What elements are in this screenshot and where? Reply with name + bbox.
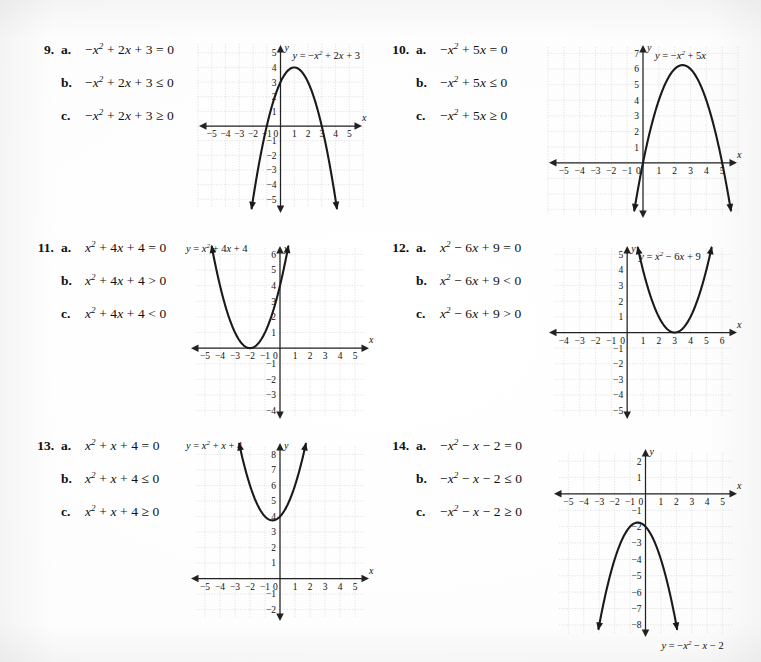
y-tick-label: 8 <box>271 450 276 460</box>
y-axis-label: y <box>283 440 289 451</box>
problem-part: 13.a.x2 + x + 4 = 0 <box>28 438 160 454</box>
problem-number: 11. <box>28 240 54 256</box>
graph-11-equation-label: y = x2 + 4x + 4 <box>186 243 248 254</box>
problem-part: 10.c.−x2 + 5x ≥ 0 <box>383 108 508 124</box>
problem-number: 10. <box>383 42 409 58</box>
x-tick-label: −3 <box>234 129 244 139</box>
part-letter: a. <box>416 240 431 256</box>
x-axis-label: x <box>368 334 374 345</box>
y-tick-label: 1 <box>271 558 276 568</box>
x-tick-label: −3 <box>594 497 604 507</box>
x-tick-label: −4 <box>220 129 230 139</box>
graph-12: −4−3−2−10123456−5−4−3−2−112345xyy = x2 −… <box>548 245 738 420</box>
problem-part: 9.c.−x2 + 2x + 3 ≥ 0 <box>28 108 174 124</box>
part-expression: x2 + 4x + 4 < 0 <box>85 306 166 322</box>
axis-names: xy <box>283 243 374 345</box>
problem-number: 12. <box>383 240 409 256</box>
textbook-page: 9.a.−x2 + 2x + 3 = 09.b.−x2 + 2x + 3 ≤ 0… <box>0 0 761 662</box>
tick-labels: −5−4−3−2−10123451234567 <box>559 49 725 176</box>
problem-number: 13. <box>28 438 54 454</box>
x-axis-label: x <box>361 112 367 123</box>
y-tick-label: 6 <box>271 250 276 260</box>
y-tick-label: 3 <box>271 527 276 537</box>
y-tick-label: 4 <box>618 265 623 275</box>
part-expression: x2 − 6x + 9 < 0 <box>440 273 521 289</box>
x-axis-label: x <box>736 149 742 160</box>
y-axis-label: y <box>649 446 655 457</box>
y-tick-label: 3 <box>272 78 277 88</box>
x-tick-label: 1 <box>659 497 664 507</box>
x-tick-label: −5 <box>207 129 217 139</box>
y-tick-label: −1 <box>266 589 276 599</box>
part-letter: c. <box>61 306 76 322</box>
x-tick-label: 1 <box>656 166 661 176</box>
part-expression: −x2 + 5x ≤ 0 <box>440 75 507 91</box>
x-tick-label: 1 <box>292 129 297 139</box>
part-expression: −x2 + 5x ≥ 0 <box>440 108 507 124</box>
y-tick-label: 4 <box>271 281 276 291</box>
problem-part: 13.b.x2 + x + 4 ≤ 0 <box>28 471 160 487</box>
graph-11-svg: −5−4−3−2−1012345−4−3−2−1123456xy <box>190 245 370 420</box>
y-tick-label: −4 <box>613 390 623 400</box>
x-tick-label: 3 <box>688 166 693 176</box>
y-tick-label: 1 <box>618 312 623 322</box>
x-tick-label: 5 <box>704 336 709 346</box>
x-tick-label: 3 <box>323 582 328 592</box>
part-expression: x2 + x + 4 ≤ 0 <box>85 471 159 487</box>
graph-9: −5−4−3−2−1012345−5−4−3−2−112345xyy = −x2… <box>198 44 363 214</box>
y-tick-label: −1 <box>613 344 623 354</box>
x-tick-label: −3 <box>575 336 585 346</box>
x-tick-label: −2 <box>590 336 600 346</box>
y-tick-label: 1 <box>272 107 277 117</box>
x-tick-label: 4 <box>333 129 338 139</box>
y-tick-label: 5 <box>634 80 639 90</box>
x-tick-label: −3 <box>590 166 600 176</box>
y-tick-label: −3 <box>266 165 276 175</box>
problem-part: 10.a.−x2 + 5x = 0 <box>383 42 508 58</box>
y-tick-label: 6 <box>271 481 276 491</box>
x-tick-label: −2 <box>245 582 255 592</box>
x-tick-label: 5 <box>720 497 725 507</box>
y-axis-label: y <box>630 243 636 254</box>
problem-part: 9.a.−x2 + 2x + 3 = 0 <box>28 42 174 58</box>
y-tick-label: −3 <box>631 538 641 548</box>
graph-10-equation-label: y = −x2 + 5x <box>655 50 706 61</box>
problem-part: 11.c.x2 + 4x + 4 < 0 <box>28 306 166 322</box>
y-tick-label: 2 <box>271 543 276 553</box>
y-tick-label: −2 <box>613 359 623 369</box>
part-letter: a. <box>61 240 76 256</box>
y-tick-label: −4 <box>631 555 641 565</box>
y-tick-label: 3 <box>634 111 639 121</box>
y-tick-label: −3 <box>613 375 623 385</box>
part-letter: b. <box>416 471 431 487</box>
graph-14: −5−4−3−2−1012345−8−7−6−5−4−3−2−112xyy = … <box>553 448 738 638</box>
x-tick-label: −5 <box>200 582 210 592</box>
x-tick-label: −3 <box>230 351 240 361</box>
problem-part: 14.c.−x2 − x − 2 ≥ 0 <box>383 504 522 520</box>
part-letter: b. <box>416 75 431 91</box>
x-tick-label: 2 <box>656 336 661 346</box>
x-tick-label: −2 <box>245 351 255 361</box>
problem-part: 9.b.−x2 + 2x + 3 ≤ 0 <box>28 75 174 91</box>
part-letter: a. <box>416 438 431 454</box>
problem-part: 12.c.x2 − 6x + 9 > 0 <box>383 306 521 322</box>
x-tick-label: 2 <box>308 351 313 361</box>
problem-part: 12.a.x2 − 6x + 9 = 0 <box>383 240 521 256</box>
part-letter: c. <box>61 504 76 520</box>
y-tick-label: 1 <box>271 328 276 338</box>
part-letter: c. <box>416 306 431 322</box>
y-tick-label: 3 <box>618 281 623 291</box>
x-tick-label: 5 <box>353 351 358 361</box>
part-expression: −x2 + 5x = 0 <box>440 42 508 58</box>
part-expression: −x2 − x − 2 = 0 <box>440 438 522 454</box>
part-letter: c. <box>416 504 431 520</box>
tick-labels: −5−4−3−2−1012345−4−3−2−1123456 <box>200 250 358 416</box>
part-expression: −x2 + 2x + 3 = 0 <box>85 42 174 58</box>
x-tick-label: −2 <box>610 497 620 507</box>
x-tick-label: 3 <box>689 497 694 507</box>
x-tick-label: 4 <box>688 336 693 346</box>
y-tick-label: −2 <box>266 375 276 385</box>
x-tick-label: 2 <box>308 582 313 592</box>
x-tick-label: −3 <box>230 582 240 592</box>
axis-names: xy <box>283 440 374 576</box>
